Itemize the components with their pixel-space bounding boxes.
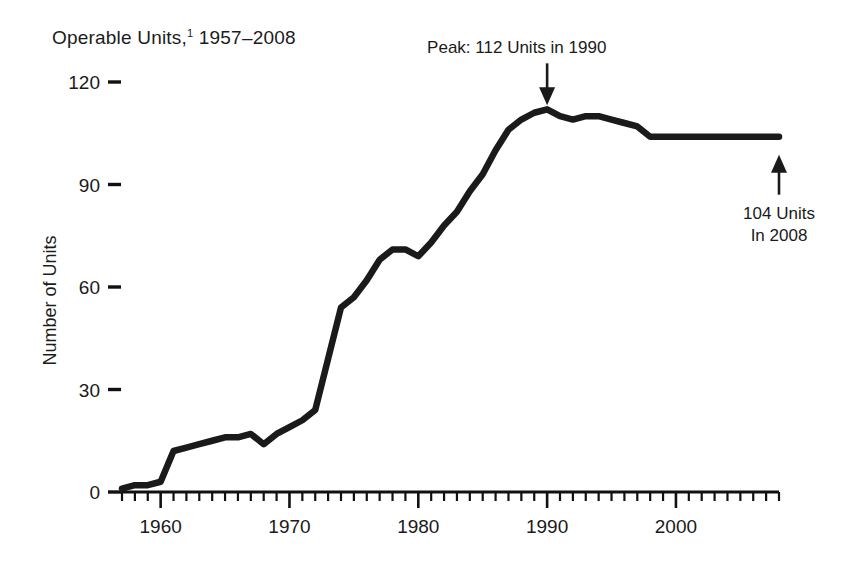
x-tick-label-1980: 1980 (397, 516, 439, 537)
peak-annotation-label: Peak: 112 Units in 1990 (427, 38, 606, 57)
y-tick-label-0: 0 (89, 482, 100, 503)
peak-annotation: Peak: 112 Units in 1990 (427, 38, 606, 105)
x-tick-label-1990: 1990 (526, 516, 568, 537)
y-axis-tick-labels: 0306090120 (68, 72, 100, 503)
y-axis-ticks (108, 82, 121, 492)
end-annotation-line2: In 2008 (751, 226, 808, 245)
x-axis-tick-labels: 19601970198019902000 (140, 516, 698, 537)
chart-plot-area: 19601970198019902000 0306090120 Peak: 11… (0, 0, 842, 571)
y-tick-label-120: 120 (68, 72, 100, 93)
chart-page: Operable Units,1 1957–2008 Number of Uni… (0, 0, 842, 571)
x-tick-label-1960: 1960 (140, 516, 182, 537)
data-series-line (122, 109, 779, 488)
y-tick-label-30: 30 (79, 380, 100, 401)
peak-arrow-head (539, 87, 555, 105)
end-annotation: 104 Units In 2008 (743, 155, 815, 245)
x-tick-label-2000: 2000 (655, 516, 697, 537)
y-tick-label-90: 90 (79, 175, 100, 196)
end-annotation-line1: 104 Units (743, 204, 815, 223)
y-tick-label-60: 60 (79, 277, 100, 298)
x-tick-label-1970: 1970 (268, 516, 310, 537)
